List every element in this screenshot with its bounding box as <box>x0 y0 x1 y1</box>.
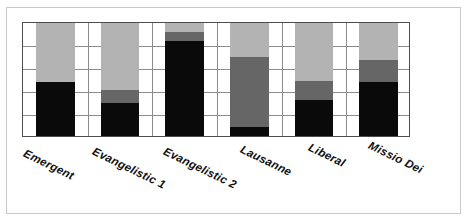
category-label-lausanne: Lausanne <box>239 143 294 178</box>
bar-evangelistic-2 <box>165 23 204 136</box>
category-label-evangelistic-2: Evangelistic 2 <box>162 145 239 191</box>
category-label-liberal: Liberal <box>307 141 347 169</box>
bar-segment <box>101 90 140 104</box>
bar-segment <box>230 23 269 57</box>
bar-segment <box>359 23 398 60</box>
chart-figure: EmergentEvangelistic 1Evangelistic 2Laus… <box>0 0 469 223</box>
plot-area <box>22 22 410 137</box>
bar-segment <box>230 57 269 127</box>
bar-segment <box>36 23 75 82</box>
category-label-missio-dei: Missio Dei <box>367 139 425 176</box>
category-label-evangelistic-1: Evangelistic 1 <box>91 145 168 191</box>
bar-liberal <box>295 23 334 136</box>
bar-segment <box>165 23 204 32</box>
category-axis-labels: EmergentEvangelistic 1Evangelistic 2Laus… <box>0 137 469 223</box>
bar-segment <box>295 23 334 81</box>
bar-segment <box>230 127 269 136</box>
category-label-emergent: Emergent <box>22 147 76 182</box>
bar-missio-dei <box>359 23 398 136</box>
bar-segment <box>165 32 204 41</box>
bar-emergent <box>36 23 75 136</box>
bar-segment <box>36 82 75 136</box>
bar-segment <box>165 41 204 136</box>
bar-segment <box>359 82 398 136</box>
bar-segment <box>295 100 334 136</box>
bar-segment <box>295 81 334 100</box>
bar-lausanne <box>230 23 269 136</box>
bar-segment <box>101 103 140 136</box>
bar-series-group <box>23 23 409 136</box>
bar-segment <box>359 60 398 81</box>
bar-segment <box>101 23 140 90</box>
bar-evangelistic-1 <box>101 23 140 136</box>
